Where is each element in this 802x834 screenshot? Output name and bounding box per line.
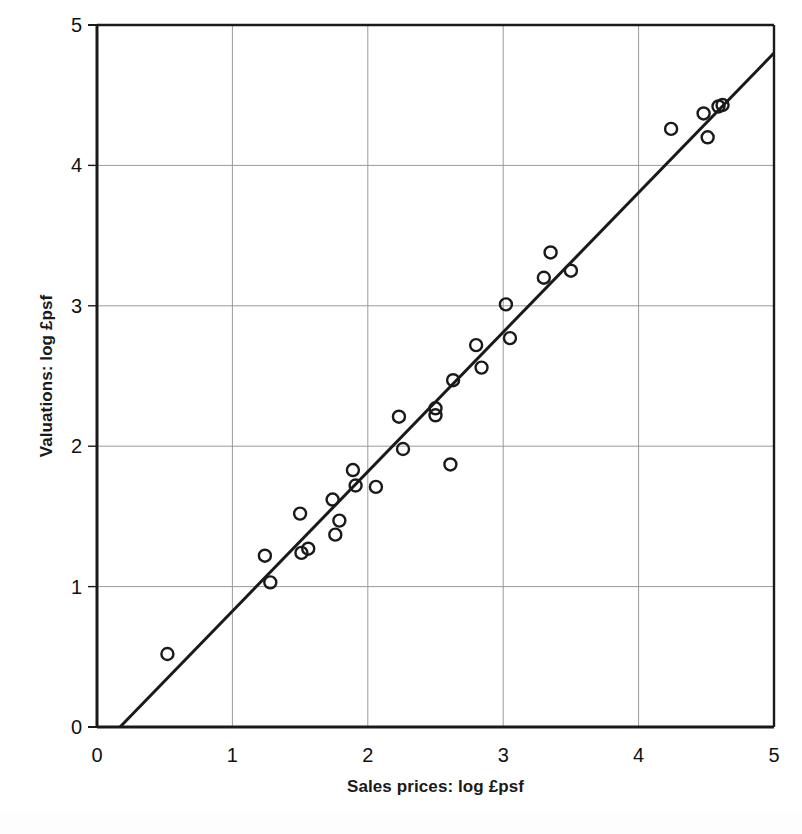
- data-point: [444, 458, 456, 470]
- x-tick-label-0: 0: [84, 745, 110, 765]
- data-point: [565, 265, 577, 277]
- data-point: [698, 107, 710, 119]
- data-points: [161, 99, 728, 660]
- x-tick-label-2: 2: [355, 745, 381, 765]
- x-tick-label-5: 5: [761, 745, 787, 765]
- data-point: [545, 246, 557, 258]
- regression-line: [120, 53, 774, 727]
- scatter-plot-figure: 012345012345 Valuations: log £psf Sales …: [0, 0, 802, 834]
- data-point: [333, 515, 345, 527]
- data-point: [294, 508, 306, 520]
- plot-canvas: [0, 0, 802, 834]
- data-point: [538, 272, 550, 284]
- data-point: [370, 481, 382, 493]
- x-tick-label-3: 3: [490, 745, 516, 765]
- data-point: [665, 123, 677, 135]
- x-tick-label-4: 4: [626, 745, 652, 765]
- data-point: [329, 529, 341, 541]
- data-point: [500, 298, 512, 310]
- y-axis-title: Valuations: log £psf: [30, 25, 64, 727]
- data-point: [347, 464, 359, 476]
- data-point: [476, 362, 488, 374]
- x-tick-label-1: 1: [219, 745, 245, 765]
- axes-frame: [97, 25, 774, 727]
- x-axis-title: Sales prices: log £psf: [97, 777, 774, 797]
- gridlines: [97, 25, 774, 727]
- data-point: [161, 648, 173, 660]
- data-point: [397, 443, 409, 455]
- page-edge-strip: [0, 812, 802, 834]
- data-point: [470, 339, 482, 351]
- data-point: [259, 550, 271, 562]
- data-point: [702, 131, 714, 143]
- data-point: [504, 332, 516, 344]
- data-point: [393, 411, 405, 423]
- data-point: [327, 494, 339, 506]
